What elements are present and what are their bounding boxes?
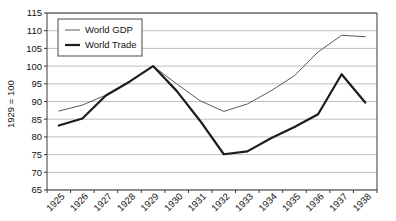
chart-legend: World GDPWorld Trade bbox=[58, 19, 142, 56]
y-axis-tick-label: 65 bbox=[31, 184, 42, 195]
y-axis-tick-label: 75 bbox=[31, 149, 42, 160]
y-axis-tick-label: 70 bbox=[31, 167, 42, 178]
x-axis-tick-label: 1930 bbox=[162, 191, 185, 214]
line-chart: 65707580859095100105110115 1925192619271… bbox=[0, 0, 396, 221]
y-axis-tick-label: 80 bbox=[31, 131, 42, 142]
legend-label: World Trade bbox=[85, 39, 137, 50]
y-axis-tick-label: 105 bbox=[26, 43, 42, 54]
x-axis-tick-label: 1936 bbox=[303, 191, 326, 214]
y-axis-tick-label: 100 bbox=[26, 61, 42, 72]
x-axis-tick-label: 1925 bbox=[44, 191, 67, 214]
x-axis-tick-label: 1938 bbox=[350, 191, 373, 214]
x-axis-tick-label: 1933 bbox=[233, 191, 256, 214]
chart-canvas: 65707580859095100105110115 1925192619271… bbox=[0, 0, 396, 221]
y-axis-tick-labels: 65707580859095100105110115 bbox=[26, 7, 47, 195]
x-axis-tick-label: 1932 bbox=[209, 191, 232, 214]
x-axis-tick-label: 1934 bbox=[256, 191, 279, 214]
y-axis-title: 1929 = 100 bbox=[5, 80, 16, 128]
x-axis-tick-label: 1931 bbox=[185, 191, 208, 214]
y-axis-tick-label: 85 bbox=[31, 114, 42, 125]
series-line-world-trade bbox=[59, 66, 365, 154]
x-axis-tick-label: 1937 bbox=[327, 191, 350, 214]
y-axis-tick-label: 110 bbox=[27, 25, 42, 36]
legend-label: World GDP bbox=[85, 24, 133, 35]
x-axis-tick-label: 1929 bbox=[138, 191, 161, 214]
x-axis-tick-label: 1927 bbox=[91, 191, 114, 214]
x-axis-tick-label: 1935 bbox=[280, 191, 303, 214]
y-axis-tick-label: 95 bbox=[31, 78, 42, 89]
x-axis-tick-label: 1926 bbox=[68, 191, 91, 214]
y-axis-tick-label: 90 bbox=[31, 96, 42, 107]
x-axis-tick-label: 1928 bbox=[115, 191, 138, 214]
x-axis-tick-labels: 1925192619271928192919301931193219331934… bbox=[44, 191, 373, 214]
y-axis-tick-label: 115 bbox=[27, 7, 42, 18]
